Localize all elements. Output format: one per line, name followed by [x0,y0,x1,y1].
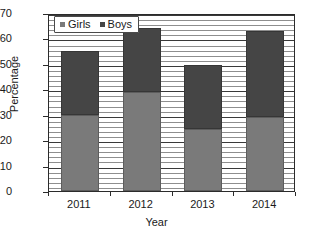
bar-group[interactable] [123,14,161,191]
x-tick-mark [110,192,111,196]
bar-segment-boys[interactable] [246,31,284,117]
bar-group[interactable] [184,14,222,191]
x-tick-label: 2014 [234,198,294,210]
y-tick-label: 10 [0,161,12,172]
x-tick-label: 2013 [172,198,232,210]
girls-swatch-icon [60,22,65,27]
legend-label-boys: Boys [108,19,132,30]
bar-segment-girls[interactable] [184,129,222,191]
y-tick-label: 0 [0,186,12,197]
bar-segment-girls[interactable] [246,117,284,191]
legend-label-girls: Girls [68,19,91,30]
x-tick-mark [48,192,49,196]
x-tick-mark [233,192,234,196]
y-tick-label: 70 [0,8,12,19]
bar-segment-girls[interactable] [123,92,161,191]
x-axis-title: Year [0,216,313,228]
x-tick-mark [172,192,173,196]
plot-area [48,14,295,192]
chart-legend: Girls Boys [54,16,139,33]
y-tick-label: 50 [0,59,12,70]
bar-group[interactable] [246,14,284,191]
x-tick-label: 2011 [49,198,109,210]
bar-segment-girls[interactable] [61,115,99,191]
bar-group[interactable] [61,14,99,191]
bars-layer [49,15,294,191]
bar-segment-boys[interactable] [184,65,222,129]
stacked-bar-chart: Percentage 010203040506070 2011201220132… [0,0,313,239]
legend-item-girls[interactable]: Girls [60,19,91,30]
boys-swatch-icon [100,22,105,27]
bar-segment-boys[interactable] [123,28,161,92]
y-tick-label: 40 [0,84,12,95]
x-tick-mark [295,192,296,196]
x-tick-label: 2012 [111,198,171,210]
bar-segment-boys[interactable] [61,51,99,115]
y-tick-label: 60 [0,33,12,44]
y-tick-label: 20 [0,135,12,146]
legend-item-boys[interactable]: Boys [100,19,132,30]
y-tick-label: 30 [0,110,12,121]
